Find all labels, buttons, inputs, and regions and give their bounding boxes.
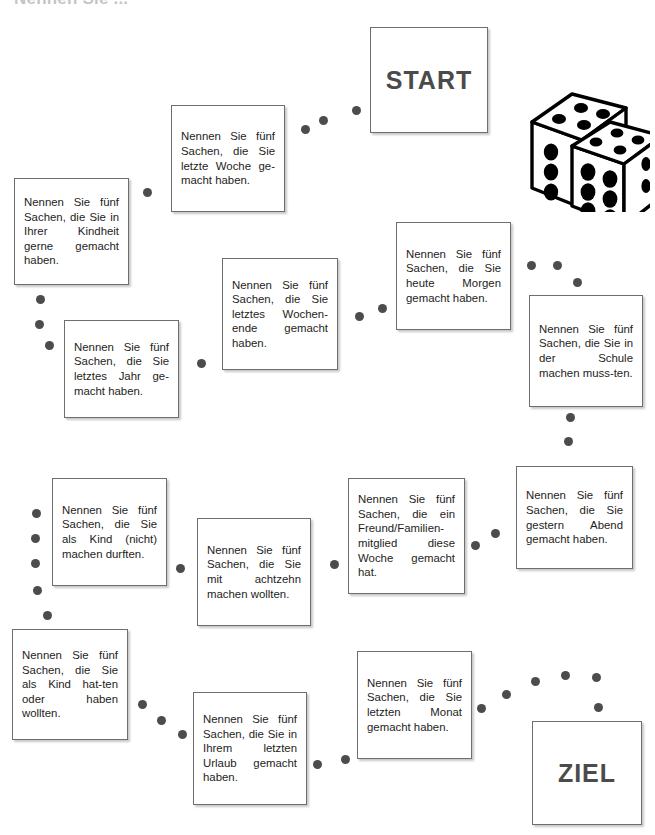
- prompt-card[interactable]: Nennen Sie fünf Sachen, die Sie als Kind…: [12, 629, 128, 740]
- prompt-text: Nennen Sie fünf Sachen, die Sie als Kind…: [62, 503, 157, 561]
- path-dot: [178, 730, 187, 739]
- path-dot: [573, 278, 582, 287]
- path-dot: [157, 716, 166, 725]
- path-dot: [138, 700, 147, 709]
- prompt-text: Nennen Sie fünf Sachen, die Sie letzten …: [367, 676, 462, 734]
- start-tile[interactable]: START: [370, 27, 488, 133]
- path-dot: [176, 564, 185, 573]
- path-dot: [477, 704, 486, 713]
- prompt-card[interactable]: Nennen Sie fünf Sachen, die Sie in der S…: [529, 295, 643, 407]
- prompt-text: Nennen Sie fünf Sachen, die Sie letzte W…: [181, 129, 275, 187]
- path-dot: [43, 611, 52, 620]
- two-dice-icon: [524, 80, 650, 212]
- path-dot: [197, 359, 206, 368]
- prompt-card[interactable]: Nennen Sie fünf Sachen, die Sie mit acht…: [197, 518, 311, 626]
- path-dot: [471, 541, 480, 550]
- path-dot: [301, 125, 310, 134]
- path-dot: [566, 413, 575, 422]
- path-dot: [561, 671, 570, 680]
- prompt-text: Nennen Sie fünf Sachen, die Sie gestern …: [526, 488, 623, 546]
- ziel-label: ZIEL: [558, 759, 616, 788]
- prompt-card[interactable]: Nennen Sie fünf Sachen, die Sie in Ihrem…: [193, 692, 307, 805]
- prompt-card[interactable]: Nennen Sie fünf Sachen, die Sie letzte W…: [171, 105, 285, 212]
- path-dot: [594, 703, 603, 712]
- prompt-card[interactable]: Nennen Sie fünf Sachen, die Sie als Kind…: [52, 478, 167, 586]
- path-dot: [502, 690, 511, 699]
- prompt-card[interactable]: Nennen Sie fünf Sachen, die ein Freund/F…: [348, 478, 465, 594]
- prompt-text: Nennen Sie fünf Sachen, die ein Freund/F…: [358, 492, 455, 580]
- path-dot: [341, 755, 350, 764]
- prompt-text: Nennen Sie fünf Sachen, die Sie in Ihrem…: [203, 712, 297, 785]
- path-dot: [143, 188, 152, 197]
- path-dot: [36, 295, 45, 304]
- path-dot: [352, 106, 361, 115]
- path-dot: [330, 560, 339, 569]
- path-dot: [491, 529, 500, 538]
- path-dot: [527, 261, 536, 270]
- prompt-text: Nennen Sie fünf Sachen, die Sie heute Mo…: [406, 247, 501, 305]
- path-dot: [32, 509, 41, 518]
- page-title: Nennen Sie ...: [14, 0, 128, 9]
- prompt-text: Nennen Sie fünf Sachen, die Sie als Kind…: [22, 648, 118, 721]
- prompt-card[interactable]: Nennen Sie fünf Sachen, die Sie letztes …: [64, 320, 179, 418]
- path-dot: [531, 677, 540, 686]
- start-label: START: [386, 66, 472, 95]
- prompt-text: Nennen Sie fünf Sachen, die Sie letztes …: [232, 278, 328, 351]
- path-dot: [33, 586, 42, 595]
- prompt-text: Nennen Sie fünf Sachen, die Sie mit acht…: [207, 543, 301, 601]
- path-dot: [553, 261, 562, 270]
- path-dot: [564, 437, 573, 446]
- prompt-card[interactable]: Nennen Sie fünf Sachen, die Sie letzten …: [357, 651, 472, 759]
- prompt-text: Nennen Sie fünf Sachen, die Sie in Ihrer…: [24, 195, 119, 268]
- path-dot: [31, 559, 40, 568]
- path-dot: [31, 534, 40, 543]
- prompt-card[interactable]: Nennen Sie fünf Sachen, die Sie in Ihrer…: [14, 178, 129, 285]
- path-dot: [378, 304, 387, 313]
- ziel-tile[interactable]: ZIEL: [532, 721, 642, 825]
- path-dot: [35, 320, 44, 329]
- board-game-canvas: Nennen Sie ... START: [0, 0, 655, 835]
- prompt-card[interactable]: Nennen Sie fünf Sachen, die Sie heute Mo…: [396, 222, 511, 330]
- path-dot: [319, 116, 328, 125]
- path-dot: [313, 760, 322, 769]
- path-dot: [592, 673, 601, 682]
- prompt-text: Nennen Sie fünf Sachen, die Sie letztes …: [74, 340, 169, 398]
- prompt-card[interactable]: Nennen Sie fünf Sachen, die Sie gestern …: [516, 466, 633, 569]
- prompt-text: Nennen Sie fünf Sachen, die Sie in der S…: [539, 322, 633, 380]
- prompt-card[interactable]: Nennen Sie fünf Sachen, die Sie letztes …: [222, 258, 338, 370]
- path-dot: [45, 341, 54, 350]
- path-dot: [355, 312, 364, 321]
